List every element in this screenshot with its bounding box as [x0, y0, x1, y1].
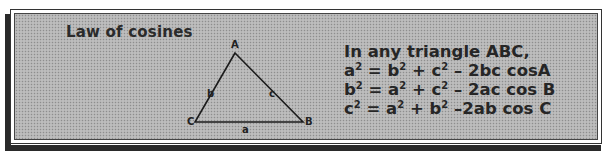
side-c-label: c	[269, 88, 275, 99]
vertex-c-label: C	[187, 116, 194, 127]
side-b-label: b	[207, 88, 214, 99]
formula-line-a: a2 = b2 + c2 – 2bc cosA	[344, 61, 555, 80]
formula-intro: In any triangle ABC,	[344, 42, 555, 61]
dotted-panel: Law of cosines A C B b c a In any triang…	[14, 13, 598, 140]
frame-shadow-bottom	[5, 145, 601, 151]
law-of-cosines-box: Law of cosines A C B b c a In any triang…	[10, 9, 602, 144]
vertex-a-label: A	[231, 39, 239, 50]
formula-line-b: b2 = a2 + c2 – 2ac cos B	[344, 80, 555, 99]
formula-block: In any triangle ABC, a2 = b2 + c2 – 2bc …	[344, 42, 555, 118]
vertex-b-label: B	[305, 116, 313, 127]
side-a-label: a	[242, 124, 249, 135]
formula-line-c: c2 = a2 + b2 –2ab cos C	[344, 99, 555, 118]
